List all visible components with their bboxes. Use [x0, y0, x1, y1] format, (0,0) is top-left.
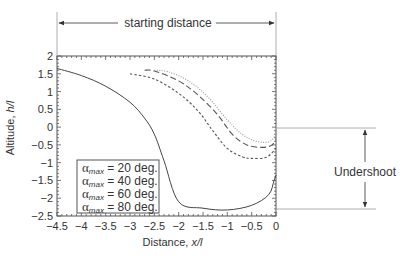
- y-tick-label: 1: [47, 86, 53, 98]
- x-tick-label: −2.5: [143, 220, 165, 232]
- y-tick-label: 1.5: [38, 68, 53, 80]
- x-tick-label: −4: [75, 220, 88, 232]
- y-tick-label: −1.5: [31, 174, 53, 186]
- x-tick-label: −1.5: [192, 220, 214, 232]
- series-line: [130, 74, 276, 159]
- x-tick-label: −3.5: [95, 220, 117, 232]
- x-axis-label: Distance, x/l: [143, 236, 203, 248]
- starting-distance-label: starting distance: [124, 16, 212, 30]
- y-axis-label: Altitude, h/l: [4, 100, 16, 155]
- y-tick-label: 0.5: [38, 103, 53, 115]
- x-tick-label: −3: [124, 220, 137, 232]
- y-tick-label: −2: [40, 192, 53, 204]
- x-tick-label: −1: [221, 220, 234, 232]
- y-tick-label: −1: [40, 157, 53, 169]
- x-tick-label: −0.5: [241, 220, 263, 232]
- series-line: [145, 70, 276, 147]
- chart: −4.5−4−3.5−3−2.5−2−1.5−1−0.5021.510.50−0…: [0, 0, 406, 258]
- y-tick-label: 0: [47, 121, 53, 133]
- y-tick-label: 2: [47, 50, 53, 62]
- y-tick-label: −0.5: [31, 139, 53, 151]
- series-line: [154, 70, 276, 142]
- y-tick-label: −2.5: [31, 210, 53, 222]
- x-tick-label: 0: [273, 220, 279, 232]
- x-tick-label: −2: [172, 220, 185, 232]
- undershoot-label: Undershoot: [334, 165, 397, 179]
